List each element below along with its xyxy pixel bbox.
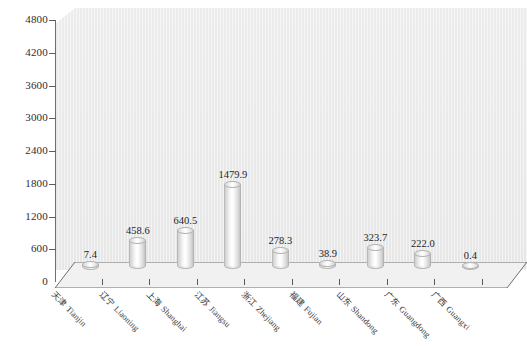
x-axis-category-label: 山东 Shandong	[335, 290, 380, 335]
y-axis-tick-label: 2400	[4, 145, 48, 156]
y-axis-tick-label: 1200	[4, 211, 48, 222]
x-axis-category-label: 广东 Guangdong	[382, 290, 431, 339]
x-axis-tick-mark	[149, 279, 150, 285]
plot-area-background	[55, 8, 527, 270]
x-axis-category-label: 江苏 Jiangsu	[192, 290, 231, 329]
y-axis-tick-label: 4200	[4, 47, 48, 58]
x-axis-tick-mark	[292, 279, 293, 285]
x-axis-category-label: 辽宁 Liaoning	[97, 290, 140, 333]
x-axis-category-label: 天津 Tianjin	[50, 290, 88, 328]
x-axis-tick-mark	[482, 279, 483, 285]
x-axis-tick-mark	[434, 279, 435, 285]
y-axis-tick-mark	[49, 86, 56, 87]
y-axis-tick-label: 3600	[4, 80, 48, 91]
y-axis-tick-mark	[49, 151, 56, 152]
x-axis-labels: 天津 Tianjin辽宁 Liaoning上海 Shanghai江苏 Jiang…	[0, 286, 527, 346]
x-axis-tick-mark	[197, 279, 198, 285]
y-axis-tick-label: 600	[4, 243, 48, 254]
x-axis-category-label: 浙江 Zhejiang	[240, 290, 283, 333]
y-axis-tick-label: 1800	[4, 178, 48, 189]
x-axis-category-label: 福建 Fujian	[287, 290, 324, 327]
x-axis-tick-mark	[102, 279, 103, 285]
y-axis-tick-mark	[49, 249, 56, 250]
y-axis-tick-mark	[49, 20, 56, 21]
x-axis-category-label: 广西 Guangxi	[430, 290, 472, 332]
x-axis-tick-mark	[339, 279, 340, 285]
y-axis-tick-label: 4800	[4, 14, 48, 25]
y-axis-tick-label: 3000	[4, 112, 48, 123]
chart-container: 48004200360030002400180012006000 7.4458.…	[0, 0, 527, 346]
y-axis-tick-mark	[49, 217, 56, 218]
x-axis-tick-mark	[387, 279, 388, 285]
y-axis-tick-mark	[49, 184, 56, 185]
chart-floor	[48, 262, 527, 288]
x-axis-category-label: 上海 Shanghai	[145, 290, 189, 334]
x-axis-tick-mark	[244, 279, 245, 285]
y-axis-tick-mark	[49, 53, 56, 54]
y-axis-tick-mark	[49, 118, 56, 119]
